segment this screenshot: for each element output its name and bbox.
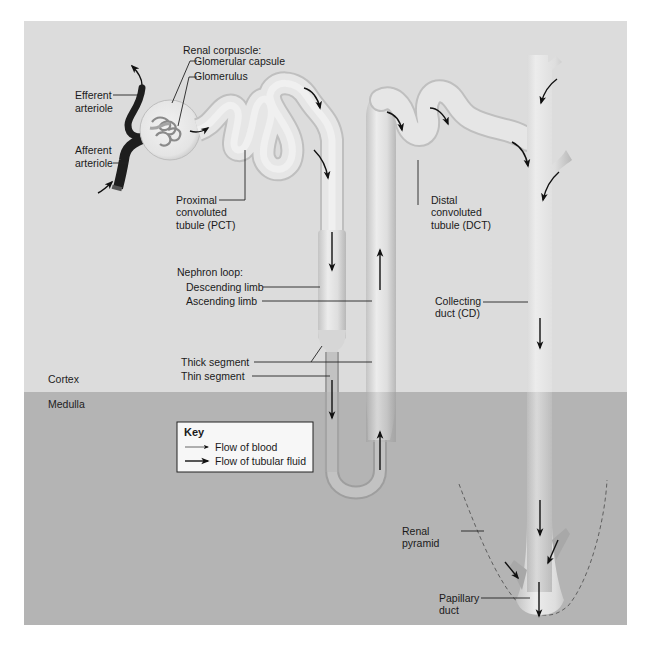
label-renal-pyramid-1: Renal — [402, 525, 429, 537]
label-ascending-limb: Ascending limb — [186, 295, 257, 307]
key-item-tubular-fluid: Flow of tubular fluid — [215, 455, 306, 467]
label-papillary-duct-1: Papillary — [439, 592, 480, 604]
label-thick-segment: Thick segment — [181, 356, 249, 368]
label-dct-3: tubule (DCT) — [431, 219, 491, 231]
key-item-blood: Flow of blood — [215, 441, 278, 453]
label-renal-pyramid-2: pyramid — [402, 537, 440, 549]
label-efferent-arteriole-2: arteriole — [75, 102, 113, 114]
label-thin-segment: Thin segment — [181, 370, 245, 382]
label-medulla: Medulla — [48, 398, 85, 410]
label-papillary-duct-2: duct — [439, 604, 459, 616]
label-collecting-duct-1: Collecting — [435, 295, 481, 307]
label-pct-1: Proximal — [176, 194, 217, 206]
key-title: Key — [184, 426, 205, 438]
label-pct-2: convoluted — [176, 206, 227, 218]
label-pct-3: tubule (PCT) — [176, 219, 236, 231]
label-afferent-arteriole-2: arteriole — [75, 157, 113, 169]
label-descending-limb: Descending limb — [186, 281, 264, 293]
label-cortex: Cortex — [48, 373, 80, 385]
label-glomerular-capsule: Glomerular capsule — [194, 55, 285, 67]
label-efferent-arteriole-1: Efferent — [75, 89, 112, 101]
renal-corpuscle — [140, 100, 200, 160]
label-nephron-loop: Nephron loop: — [177, 266, 243, 278]
nephron-diagram: Renal corpuscle: Glomerular capsule Glom… — [0, 0, 645, 661]
label-dct-1: Distal — [431, 194, 457, 206]
label-collecting-duct-2: duct (CD) — [435, 307, 480, 319]
key-legend: Key Flow of blood Flow of tubular fluid — [177, 422, 313, 472]
label-afferent-arteriole-1: Afferent — [75, 144, 112, 156]
label-glomerulus: Glomerulus — [194, 70, 248, 82]
label-dct-2: convoluted — [431, 206, 482, 218]
